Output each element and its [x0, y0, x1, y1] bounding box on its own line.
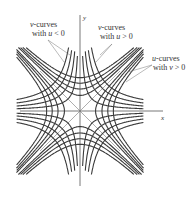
annotation-v-curves-u-neg: v-curves with u < 0 — [30, 20, 65, 38]
x-axis-label: x — [160, 114, 165, 122]
leader-v-neg-1 — [48, 40, 70, 55]
leader-v-neg-2 — [48, 40, 64, 62]
leader-u-pos-1 — [128, 65, 152, 72]
annotation-v-curves-u-pos: v-curves with u > 0 — [98, 23, 133, 41]
annotation-line1: -curves — [34, 20, 58, 29]
curvilinear-grid-diagram: x y v-curves with u < 0 v-curves with u … — [0, 0, 196, 198]
annotation-u-curves-v-pos: u-curves with v > 0 — [152, 54, 185, 72]
y-axis-label: y — [82, 14, 87, 22]
leader-v-pos-2 — [96, 44, 112, 62]
